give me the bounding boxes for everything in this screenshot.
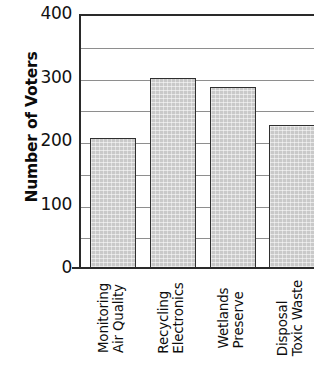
bar xyxy=(150,78,196,269)
bar-chart: Number of Voters 0100200300400 Air Quali… xyxy=(0,0,314,370)
plot-area xyxy=(79,14,314,268)
y-axis-tick-labels: 0100200300400 xyxy=(26,0,72,370)
bar xyxy=(210,87,256,268)
x-tick-label: Toxic WasteDisposal xyxy=(267,268,313,368)
x-tick-label-line: Electronics xyxy=(171,282,186,353)
bar xyxy=(269,125,314,268)
bar xyxy=(90,138,136,268)
x-tick-label-line: Air Quality xyxy=(111,284,126,353)
y-tick-label-400: 400 xyxy=(28,5,72,22)
x-tick-label-line: Wetlands xyxy=(215,288,230,349)
y-tick-label-100: 100 xyxy=(28,196,72,213)
bar-series xyxy=(81,16,314,268)
x-tick-label-line: Preserve xyxy=(231,291,246,348)
x-tick-label: PreserveWetlands xyxy=(208,268,254,368)
x-tick-label: Air QualityMonitoring xyxy=(88,268,134,368)
x-tick-label-line: Recycling xyxy=(156,291,171,354)
x-tick-label-line: Toxic Waste xyxy=(290,280,305,356)
x-tick-label-line: Disposal xyxy=(275,301,290,356)
y-tick-label-0: 0 xyxy=(28,259,72,276)
x-axis-category-labels: Air QualityMonitoringElectronicsRecyclin… xyxy=(79,268,314,370)
x-tick-label-line: Monitoring xyxy=(96,283,111,353)
y-tick-label-300: 300 xyxy=(28,69,72,86)
x-tick-label: ElectronicsRecycling xyxy=(148,268,194,368)
y-tick-label-200: 200 xyxy=(28,132,72,149)
